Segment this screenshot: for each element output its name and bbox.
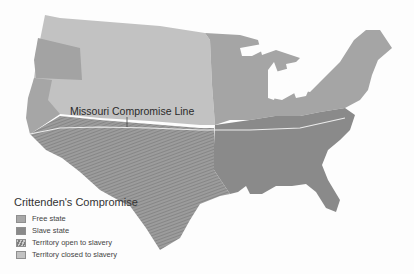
legend-title: Crittenden's Compromise: [14, 196, 138, 208]
free-state-swatch-icon: [16, 215, 26, 223]
slave-state-swatch-icon: [16, 227, 26, 235]
missouri-compromise-label: Missouri Compromise Line: [70, 105, 194, 117]
legend-item-territory-open: Territory open to slavery: [16, 237, 138, 248]
legend-item-free-state: Free state: [16, 213, 138, 224]
legend-item-slave-state: Slave state: [16, 225, 138, 236]
legend-item-territory-closed: Territory closed to slavery: [16, 249, 138, 260]
territory-closed-swatch-icon: [16, 251, 26, 259]
hatched-swatch-icon: [16, 239, 26, 247]
slave-states: [214, 108, 355, 212]
map-legend: Crittenden's Compromise Free state Slave…: [14, 196, 138, 261]
